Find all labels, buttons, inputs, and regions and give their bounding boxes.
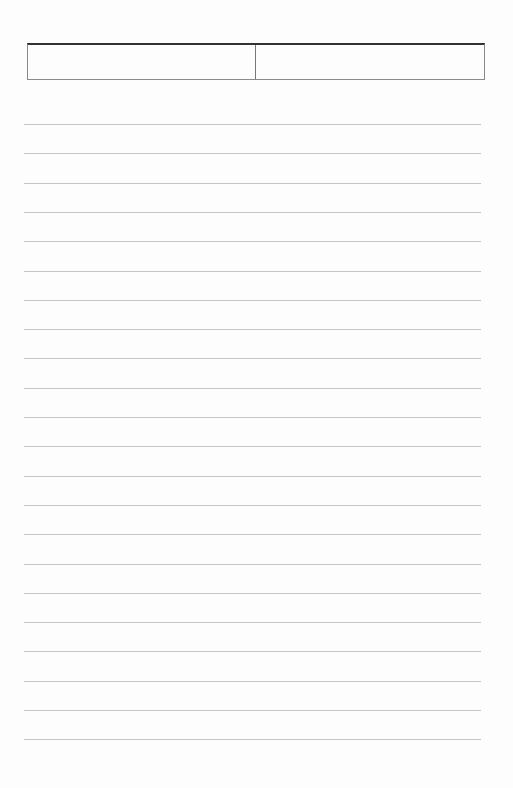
ruled-line [24,417,481,418]
ruled-line [24,388,481,389]
ruled-line [24,476,481,477]
ruled-line [24,505,481,506]
ruled-line [24,329,481,330]
ruled-line [24,739,481,740]
ruled-line [24,183,481,184]
ruled-line [24,593,481,594]
ruled-line [24,153,481,154]
ruled-line [24,564,481,565]
ruled-line [24,124,481,125]
ruled-line [24,681,481,682]
header-cell-left [28,45,256,79]
ruled-line [24,651,481,652]
ruled-line [24,212,481,213]
header-box [27,43,485,80]
ruled-line [24,534,481,535]
ruled-line [24,622,481,623]
ruled-line [24,358,481,359]
ruled-line [24,241,481,242]
ruled-line [24,710,481,711]
header-cell-right [256,45,484,79]
ruled-line [24,300,481,301]
ruled-line [24,446,481,447]
ruled-line [24,271,481,272]
